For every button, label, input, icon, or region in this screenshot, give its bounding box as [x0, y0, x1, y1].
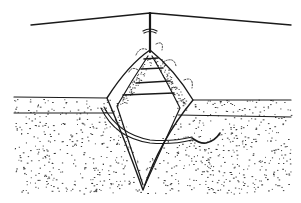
overhead-wire	[31, 13, 291, 25]
pit-cross-section-illustration	[0, 0, 301, 203]
tube-hook	[192, 133, 220, 143]
